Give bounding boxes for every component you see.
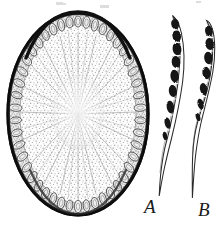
scan-speck	[100, 5, 109, 8]
scan-speck	[196, 1, 201, 3]
figure-a-stroma	[8, 12, 149, 216]
perithecial-chamber	[75, 16, 82, 27]
figure-label-b: B	[198, 200, 210, 219]
stroma-core-clearing	[52, 74, 104, 150]
perithecial-chamber	[74, 200, 81, 213]
scan-speck	[62, 3, 66, 5]
figure-label-a: A	[144, 197, 156, 216]
illustration-plate	[0, 0, 221, 235]
scan-speck	[56, 2, 63, 5]
